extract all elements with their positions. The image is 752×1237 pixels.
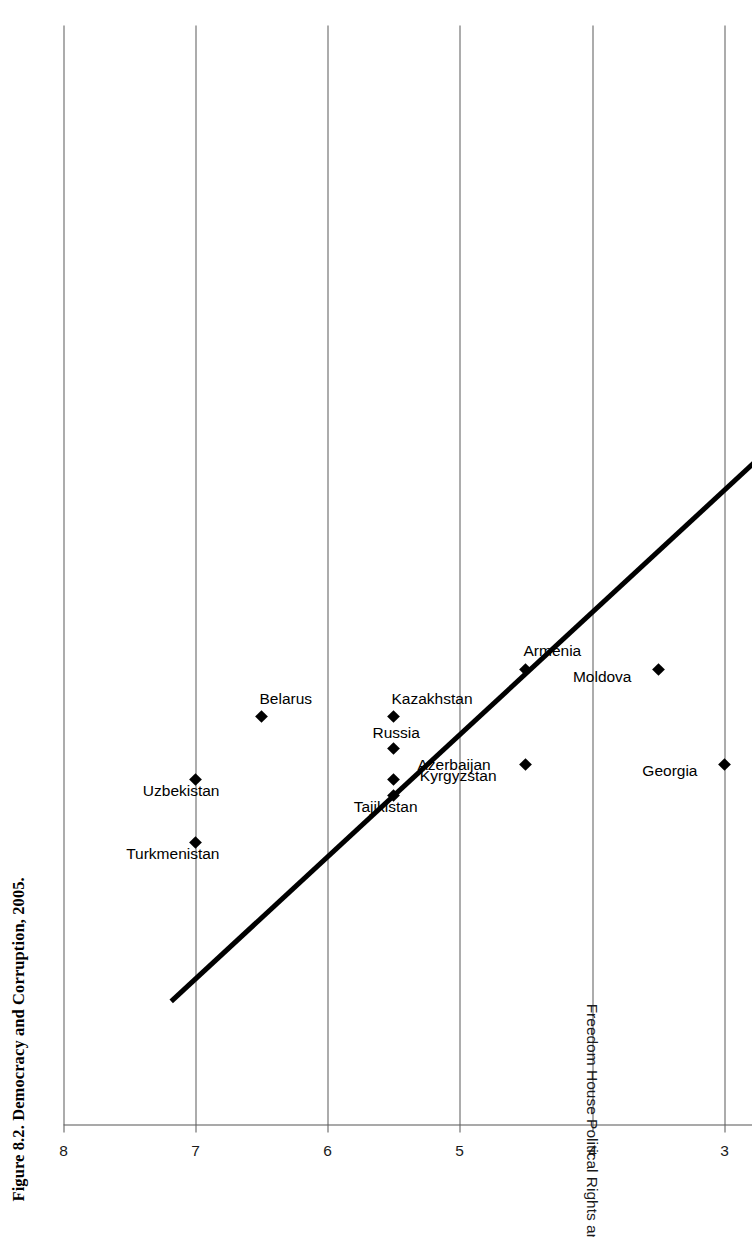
gridline-y-8	[63, 25, 64, 1125]
data-point	[387, 773, 400, 786]
plot-area: 01234567012345678TurkmenistanUzbekistanB…	[63, 25, 752, 1125]
figure-page: Figure 8.2. Democracy and Corruption, 20…	[0, 0, 752, 1237]
data-point-label: Turkmenistan	[126, 844, 219, 862]
data-point-label: Russia	[372, 723, 419, 741]
data-point-label: Georgia	[642, 761, 697, 779]
y-tick-7	[195, 1125, 196, 1132]
y-tick-label-3: 3	[719, 1142, 728, 1160]
gridline-y-7	[195, 25, 196, 1125]
data-point-label: Armenia	[523, 641, 581, 659]
data-point-label: Moldova	[573, 667, 632, 685]
gridline-y-5	[459, 25, 460, 1125]
y-tick-label-5: 5	[455, 1142, 464, 1160]
y-tick-label-6: 6	[323, 1142, 332, 1160]
gridline-y-3	[724, 25, 725, 1125]
data-point-label: Kazakhstan	[391, 689, 472, 707]
data-point	[717, 757, 730, 770]
y-tick-label-7: 7	[191, 1142, 200, 1160]
data-point-label: Uzbekistan	[142, 781, 219, 799]
data-point	[651, 663, 664, 676]
data-point	[255, 710, 268, 723]
data-point-label: Kyrgyzstan	[420, 766, 497, 784]
data-point	[519, 757, 532, 770]
y-tick-8	[63, 1125, 64, 1132]
y-tick-3	[724, 1125, 725, 1132]
data-point-label: Belarus	[259, 689, 312, 707]
rotated-figure: Figure 8.2. Democracy and Corruption, 20…	[0, 0, 752, 1237]
y-tick-5	[459, 1125, 460, 1132]
y-tick-6	[327, 1125, 328, 1132]
data-point	[387, 741, 400, 754]
figure-title: Figure 8.2. Democracy and Corruption, 20…	[8, 877, 28, 1201]
gridline-y-6	[327, 25, 328, 1125]
data-point-label: Tajikistan	[353, 797, 417, 815]
y-axis-title-line1: Freedom House Political Rights and Civil…	[582, 1003, 600, 1237]
y-tick-label-8: 8	[59, 1142, 68, 1160]
y-axis-line	[63, 1124, 752, 1125]
data-point	[387, 710, 400, 723]
